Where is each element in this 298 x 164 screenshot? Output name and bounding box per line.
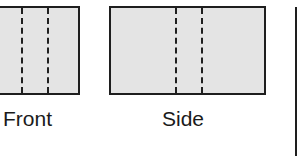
front-hidden-line-2: [47, 8, 49, 93]
top-view-left-edge: [295, 7, 297, 156]
front-view-label: Front: [3, 108, 52, 129]
front-hidden-line-1: [21, 8, 23, 93]
side-hidden-line-2: [201, 8, 203, 93]
side-view-box: [109, 6, 266, 95]
front-view-box: [0, 6, 80, 95]
side-view-label: Side: [162, 108, 204, 129]
side-hidden-line-1: [175, 8, 177, 93]
